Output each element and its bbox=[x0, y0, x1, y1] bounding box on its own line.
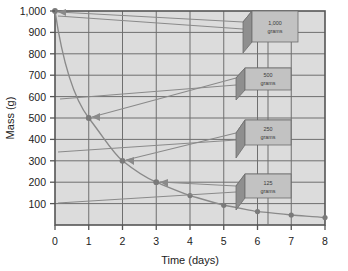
data-point-day4 bbox=[187, 193, 192, 198]
data-point-day7 bbox=[289, 212, 294, 217]
data-point-day6 bbox=[255, 209, 260, 214]
cube-250-front-face bbox=[245, 120, 291, 145]
xtick-label-4: 4 bbox=[187, 235, 193, 247]
cube-500-mass-label: 500 bbox=[264, 72, 273, 78]
decay-chart-figure: 1,000 grams 500 grams 250 grams 125 gram… bbox=[0, 0, 348, 271]
xtick-label-3: 3 bbox=[153, 235, 159, 247]
xtick-label-2: 2 bbox=[120, 235, 126, 247]
data-point-day8 bbox=[322, 215, 327, 220]
cube-1000-mass-label: 1,000 bbox=[268, 20, 282, 26]
data-point-day5 bbox=[221, 203, 226, 208]
data-point-day1 bbox=[86, 115, 92, 121]
cube-1000-unit-label: grams bbox=[268, 28, 283, 34]
xtick-label-7: 7 bbox=[288, 235, 294, 247]
ytick-label-1000: 1,000 bbox=[20, 5, 46, 17]
ytick-label-400: 400 bbox=[28, 133, 46, 145]
ytick-label-300: 300 bbox=[28, 155, 46, 167]
cube-250-unit-label: grams bbox=[261, 134, 276, 140]
xtick-label-8: 8 bbox=[322, 235, 328, 247]
data-point-day2 bbox=[120, 158, 126, 164]
data-point-day3 bbox=[153, 179, 159, 185]
ytick-label-800: 800 bbox=[28, 48, 46, 60]
cube-125-unit-label: grams bbox=[261, 188, 276, 194]
xtick-label-5: 5 bbox=[221, 235, 227, 247]
ytick-label-200: 200 bbox=[28, 176, 46, 188]
y-axis-title: Mass (g) bbox=[4, 97, 16, 140]
ytick-label-900: 900 bbox=[28, 26, 46, 38]
xtick-label-0: 0 bbox=[52, 235, 58, 247]
xtick-label-1: 1 bbox=[86, 235, 92, 247]
cube-500-unit-label: grams bbox=[261, 80, 276, 86]
x-axis-title: Time (days) bbox=[161, 254, 219, 266]
ytick-label-500: 500 bbox=[28, 112, 46, 124]
cube-1000-front-face bbox=[252, 11, 298, 42]
chart-canvas: 1,000 grams 500 grams 250 grams 125 gram… bbox=[0, 0, 348, 271]
xtick-label-6: 6 bbox=[255, 235, 261, 247]
ytick-label-700: 700 bbox=[28, 69, 46, 81]
y-axis-tick-labels: 1,000 900 800 700 600 500 400 300 200 10… bbox=[20, 5, 46, 210]
ytick-label-600: 600 bbox=[28, 91, 46, 103]
cube-125-front-face bbox=[245, 174, 291, 198]
x-axis-tick-labels: 0 1 2 3 4 5 6 7 8 bbox=[52, 235, 328, 247]
ytick-label-100: 100 bbox=[28, 198, 46, 210]
cube-250-mass-label: 250 bbox=[264, 126, 273, 132]
cube-125-mass-label: 125 bbox=[264, 180, 273, 186]
